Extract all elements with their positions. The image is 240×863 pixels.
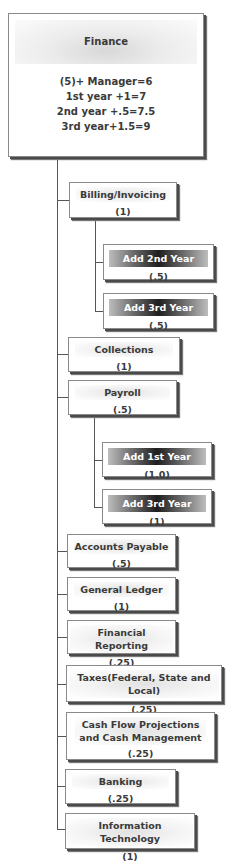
node-title: Banking [72,774,169,789]
billing-sub-connector [95,218,96,311]
payroll-sub-connector [94,415,95,507]
node-general-ledger[interactable]: General Ledger (1) [67,577,176,611]
staffing-line: 3rd year+1.5=9 [9,119,203,134]
node-payroll-add-1st-year[interactable]: Add 1st Year (1.0) [102,442,212,477]
node-title: Add 1st Year [108,448,206,465]
node-payroll[interactable]: Payroll (.5) [68,380,177,415]
main-connector [57,157,58,829]
node-title: Financial Reporting [70,625,173,653]
node-billing-add-3rd-year[interactable]: Add 3rd Year (.5) [103,293,214,329]
node-cash-flow[interactable]: Cash Flow Projections and Cash Managemen… [66,712,215,760]
node-collections[interactable]: Collections (1) [68,337,180,372]
connector-cashflow [57,736,66,737]
node-taxes[interactable]: Taxes(Federal, State and Local) (.25) [66,665,222,702]
staffing-line: (5)+ Manager=6 [9,74,203,89]
node-value: (.5) [104,270,213,283]
node-value: (.25) [67,747,214,760]
staffing-line: 1st year +1=7 [9,89,203,104]
node-accounts-payable[interactable]: Accounts Payable (.5) [67,534,176,568]
connector-ap [57,551,67,552]
node-title: Add 3rd Year [109,299,208,316]
node-value: (.25) [66,792,175,805]
node-value: (.5) [68,557,175,570]
node-finance[interactable]: Finance (5)+ Manager=6 1st year +1=7 2nd… [8,13,204,157]
connector-taxes [57,684,66,685]
node-title: Payroll [75,385,170,400]
node-billing-invoicing[interactable]: Billing/Invoicing (1) [69,182,177,218]
connector-it [57,829,65,830]
connector-billing-2nd [95,262,103,263]
node-value: (1) [70,205,176,218]
node-staffing-lines: (5)+ Manager=6 1st year +1=7 2nd year +.… [9,74,203,134]
node-title: Billing/Invoicing [76,187,170,202]
node-title: Accounts Payable [74,539,169,554]
node-title: Information Technology [67,818,193,846]
staffing-line: 2nd year +.5=7.5 [9,104,203,119]
node-payroll-add-3rd-year[interactable]: Add 3rd Year (1) [102,489,212,524]
connector-collections [57,354,68,355]
node-information-technology[interactable]: Information Technology (1) [65,813,195,849]
connector-billing-3rd [95,311,103,312]
connector-fr [57,637,67,638]
node-title: Taxes(Federal, State and Local) [69,670,219,698]
connector-banking [57,786,65,787]
connector-payroll-1st [94,460,102,461]
connector-billing [57,200,69,201]
connector-payroll-3rd [94,507,102,508]
node-value: (1) [68,600,175,613]
node-title: Add 3rd Year [108,495,206,512]
node-title: Add 2nd Year [109,250,208,267]
node-financial-reporting[interactable]: Financial Reporting (.25) [67,620,176,654]
node-value: (1.0) [103,468,211,481]
node-value: (.5) [69,403,176,416]
node-title: Cash Flow Projections and Cash Managemen… [75,717,206,745]
node-value: (1) [103,515,211,528]
node-value: (1) [69,360,179,373]
node-title: General Ledger [74,582,169,597]
node-title: Collections [75,342,173,357]
connector-payroll [57,397,68,398]
node-banking[interactable]: Banking (.25) [65,769,176,804]
connector-gl [57,594,67,595]
node-value: (.5) [104,319,213,332]
node-title: Finance [15,20,197,64]
node-value: (1) [66,850,194,863]
node-billing-add-2nd-year[interactable]: Add 2nd Year (.5) [103,244,214,280]
